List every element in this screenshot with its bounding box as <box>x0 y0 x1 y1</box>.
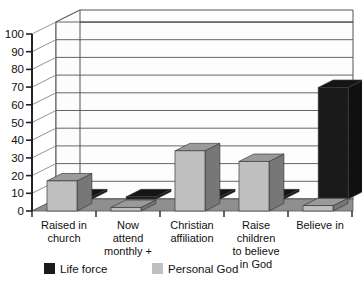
bar-front <box>47 181 77 211</box>
y-tick-label-10: 10 <box>11 187 24 199</box>
y-tick-label-20: 20 <box>11 170 24 182</box>
bar-personal-god-3 <box>239 154 284 211</box>
bar-personal-god-2 <box>175 143 220 211</box>
x-category-label-1: Now <box>117 219 139 231</box>
y-tick-label-80: 80 <box>11 63 24 75</box>
x-category-label-1: attend <box>113 232 144 244</box>
y-tick-label-90: 90 <box>11 46 24 58</box>
y-tick-label-0: 0 <box>18 205 24 217</box>
y-tick-label-100: 100 <box>5 28 24 40</box>
y-tick-label-60: 60 <box>11 99 24 111</box>
x-category-label-0: Raised in <box>41 219 87 231</box>
bar-front <box>175 151 205 211</box>
bar-side <box>269 154 284 211</box>
plot-left-wall <box>56 10 80 199</box>
bar-front <box>111 207 141 211</box>
x-category-label-0: church <box>47 232 80 244</box>
y-tick-label-70: 70 <box>11 81 24 93</box>
bar-personal-god-0 <box>47 173 92 211</box>
legend-label-personal-god: Personal God <box>168 263 238 275</box>
x-category-label-3: Raise <box>242 219 270 231</box>
y-tick-label-30: 30 <box>11 152 24 164</box>
bar-front <box>126 197 156 199</box>
x-category-label-3: children <box>237 232 276 244</box>
bar-front <box>318 87 348 199</box>
bar-side <box>205 143 220 211</box>
legend-swatch-life-force <box>44 263 55 274</box>
bar-side <box>348 80 362 199</box>
x-category-label-3: to believe <box>232 245 279 257</box>
legend-label-life-force: Life force <box>60 263 107 275</box>
y-tick-label-40: 40 <box>11 134 24 146</box>
x-category-label-3: in God <box>240 258 272 270</box>
bar-chart: 0 10 20 30 40 50 60 70 80 90 100 Raised … <box>0 0 362 284</box>
legend-swatch-personal-god <box>152 263 163 274</box>
bar-front <box>303 206 333 211</box>
x-category-label-2: Christian <box>170 219 213 231</box>
x-category-label-1: monthly + <box>104 245 152 257</box>
plot-ceiling <box>56 10 353 22</box>
chart-svg: 0 10 20 30 40 50 60 70 80 90 100 Raised … <box>0 0 362 284</box>
bar-life-force-4 <box>318 80 362 199</box>
bar-front <box>239 161 269 211</box>
x-category-label-4: Believe in <box>296 219 344 231</box>
x-category-label-2: affiliation <box>170 232 213 244</box>
y-tick-label-50: 50 <box>11 117 24 129</box>
